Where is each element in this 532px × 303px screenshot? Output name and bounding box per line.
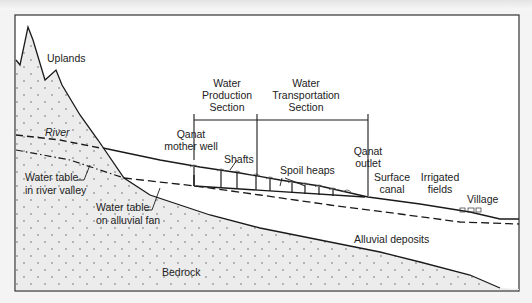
label-transport-3: Section: [288, 101, 323, 113]
qanat-diagram: Uplands River Water table in river valle…: [0, 0, 532, 303]
label-production-1: Water: [213, 77, 241, 89]
label-fields-1: Irrigated: [421, 171, 460, 183]
label-village: Village: [467, 193, 498, 205]
label-fields-2: fields: [428, 183, 453, 195]
label-water-table-river-2: in river valley: [25, 184, 87, 196]
label-production-3: Section: [209, 101, 244, 113]
label-transport-1: Water: [292, 77, 320, 89]
label-production-2: Production: [202, 89, 252, 101]
label-mother-well-2: mother well: [164, 140, 218, 152]
label-canal-2: canal: [379, 183, 404, 195]
label-river: River: [45, 126, 70, 138]
label-transport-2: Transportation: [272, 89, 339, 101]
label-water-table-fan-1: Water table: [96, 201, 149, 213]
label-spoil-heaps: Spoil heaps: [280, 164, 335, 176]
label-alluvial-deposits: Alluvial deposits: [354, 233, 429, 245]
label-shafts: Shafts: [224, 153, 254, 165]
label-outlet-1: Qanat: [354, 145, 383, 157]
label-outlet-2: outlet: [355, 157, 381, 169]
label-uplands: Uplands: [47, 52, 86, 64]
label-canal-1: Surface: [374, 171, 410, 183]
label-water-table-fan-2: on alluvial fan: [96, 214, 160, 226]
label-mother-well-1: Qanat: [177, 128, 206, 140]
label-bedrock: Bedrock: [162, 266, 201, 278]
label-water-table-river-1: Water table: [25, 171, 78, 183]
